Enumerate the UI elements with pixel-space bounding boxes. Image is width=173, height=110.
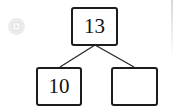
part-box-left[interactable]: 10 [36,67,82,106]
edge-shadow [171,0,173,60]
number-bond-diagram: 13 10 [0,0,173,110]
edge-whole-to-left-part [60,45,95,67]
part-box-left-value: 10 [49,76,70,97]
part-box-right[interactable] [111,67,158,106]
edge-whole-to-right-part [95,45,134,67]
media-badge-icon[interactable] [8,18,25,35]
whole-box[interactable]: 13 [71,7,118,46]
whole-box-value: 13 [84,16,105,37]
